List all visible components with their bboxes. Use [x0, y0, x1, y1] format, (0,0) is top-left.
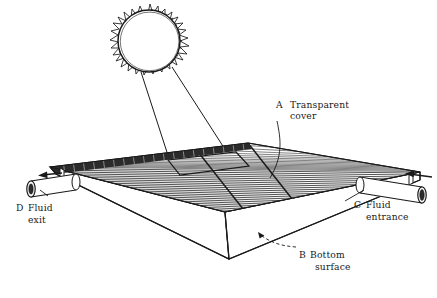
label-bottom-line1: Bottom — [310, 249, 345, 260]
sun-disc — [118, 10, 180, 72]
outlet-pipe-bore — [29, 184, 33, 194]
label-entrance-line2: entrance — [366, 211, 409, 222]
label-exit-line1: Fluid — [28, 202, 53, 213]
label-fluid-exit: D Fluid exit — [16, 202, 53, 225]
label-cover-key: A — [275, 99, 283, 110]
sun-group — [110, 4, 189, 75]
label-bottom-surface: B Bottom surface — [299, 249, 351, 272]
solar-collector-figure: A Transparent cover B Bottom surface C F… — [0, 0, 437, 298]
label-cover-line1: Transparent — [290, 99, 349, 110]
inlet-pipe-bore — [420, 190, 424, 201]
label-entrance-key: C — [354, 199, 361, 210]
label-exit-line2: exit — [28, 214, 46, 225]
label-exit-key: D — [16, 202, 23, 213]
diagram-canvas: A Transparent cover B Bottom surface C F… — [0, 0, 437, 298]
label-transparent-cover: A Transparent cover — [275, 99, 349, 121]
solar-ray-right — [172, 67, 228, 154]
label-cover-line2: cover — [290, 110, 317, 121]
label-entrance-line1: Fluid — [366, 199, 391, 210]
label-bottom-line2: surface — [315, 261, 351, 272]
label-bottom-key: B — [299, 249, 306, 260]
